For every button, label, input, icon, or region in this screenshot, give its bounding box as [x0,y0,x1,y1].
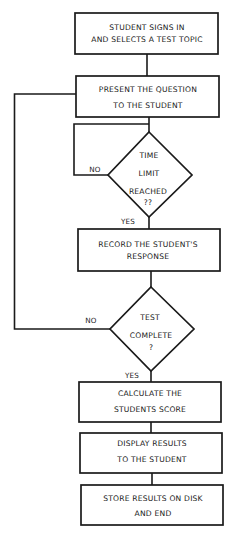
node-calculate: CALCULATE THE STUDENTS SCORE [79,382,221,422]
node-text-line: DISPLAY RESULTS [117,439,187,448]
node-text-line: ? [149,343,153,352]
process-box [76,76,219,117]
node-text-line: PRESENT THE QUESTION [99,85,197,94]
node-present: PRESENT THE QUESTION TO THE STUDENT [76,76,219,117]
node-text-line: TO THE STUDENT [112,101,183,110]
node-text-line: RECORD THE STUDENT'S [98,240,197,249]
node-text-line: TEST [139,313,160,322]
node-time-limit: TIME LIMIT REACHED ?? [108,132,192,217]
node-text-line: AND END [135,509,172,518]
node-text-line: COMPLETE [130,331,172,340]
node-text-line: STUDENT SIGNS IN [109,23,184,32]
edge-label-yes: YES [120,217,135,226]
process-box [81,485,223,525]
node-text-line: STORE RESULTS ON DISK [103,494,203,503]
node-text-line: TIME [138,151,158,160]
process-box [79,382,221,422]
node-store: STORE RESULTS ON DISK AND END [81,485,223,525]
node-text-line: LIMIT [139,169,160,178]
node-record: RECORD THE STUDENT'S RESPONSE [78,229,220,271]
process-box [78,229,220,271]
node-test-complete: TEST COMPLETE ? [110,287,194,371]
edge-label-yes: YES [124,371,139,380]
node-display: DISPLAY RESULTS TO THE STUDENT [80,433,222,473]
edge-label-no: NO [85,316,97,325]
process-box [75,13,218,54]
loop-test-complete-no [15,94,111,329]
flowchart-diagram: STUDENT SIGNS IN AND SELECTS A TEST TOPI… [0,0,239,540]
edge-label-no: NO [89,165,101,174]
node-text-line: TO THE STUDENT [116,455,187,464]
node-text-line: REACHED [129,187,167,196]
decision-diamond [110,287,194,371]
node-text-line: CALCULATE THE [118,389,182,398]
node-start: STUDENT SIGNS IN AND SELECTS A TEST TOPI… [75,13,218,54]
node-text-line: ?? [144,198,152,207]
node-text-line: RESPONSE [127,252,169,261]
node-text-line: AND SELECTS A TEST TOPIC [91,35,202,44]
node-text-line: STUDENTS SCORE [114,405,186,414]
